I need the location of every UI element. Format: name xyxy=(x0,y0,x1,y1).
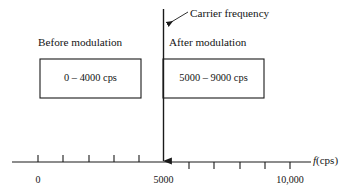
before-modulation-label: Before modulation xyxy=(38,37,122,48)
before-modulation-band-label: 0 – 4000 cps xyxy=(40,59,141,98)
axis-tick-label-0: 0 xyxy=(28,175,48,185)
axis-tick-label-5000: 5000 xyxy=(147,175,180,185)
axis-name-label: f(cps) xyxy=(313,155,338,166)
after-modulation-band-label: 5000 – 9000 cps xyxy=(163,59,264,98)
frequency-axis xyxy=(12,155,311,169)
carrier-callout-leader-line xyxy=(168,12,188,24)
axis-ticks-before xyxy=(38,155,139,162)
axis-tick-label-10000: 10,000 xyxy=(265,175,315,185)
frequency-modulation-diagram: Carrier frequency Before modulation Afte… xyxy=(0,0,357,194)
axis-unit-text: (cps) xyxy=(316,154,338,166)
axis-ticks-after xyxy=(189,162,290,169)
carrier-frequency-label: Carrier frequency xyxy=(190,8,269,19)
after-modulation-label: After modulation xyxy=(169,37,246,48)
